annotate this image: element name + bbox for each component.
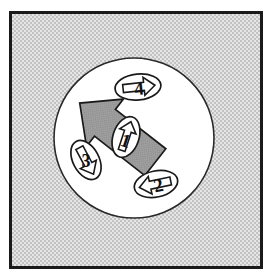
body-3-number: 3: [82, 151, 91, 171]
figure-canvas: 4 1 3 2: [0, 0, 271, 279]
diagram-svg: 4 1 3 2: [0, 0, 271, 279]
